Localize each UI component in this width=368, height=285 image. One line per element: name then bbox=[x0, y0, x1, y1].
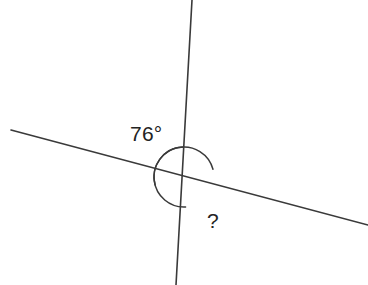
angle-diagram-canvas: 76° ? bbox=[0, 0, 368, 285]
geometry-figure bbox=[0, 0, 368, 285]
known-angle-label: 76° bbox=[130, 123, 162, 144]
unknown-angle-label: ? bbox=[207, 210, 219, 231]
transversal-line bbox=[11, 130, 368, 225]
near-vertical-line bbox=[176, 0, 192, 285]
known-angle-arc bbox=[154, 147, 182, 185]
